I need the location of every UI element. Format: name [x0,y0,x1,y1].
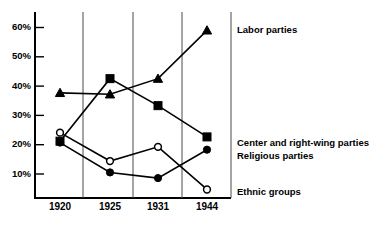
x-tick-label-1925: 1925 [99,201,122,212]
chart-canvas: 60% 50% 40% 30% 20% 10% 1920 1925 1931 1… [0,0,381,226]
legend-label-ethnic-groups: Ethnic groups [237,186,301,197]
data-point-1931 [155,143,162,150]
line-chart: 60% 50% 40% 30% 20% 10% 1920 1925 1931 1… [0,0,381,226]
x-tick-label-1931: 1931 [147,201,170,212]
data-point-1925 [107,158,114,165]
data-point-1920 [57,129,64,136]
data-point-1931 [154,175,161,182]
y-tick-label-50: 50% [12,50,32,61]
legend-label-labor-parties: Labor parties [237,24,297,35]
chart-background [0,0,381,226]
data-point-1925 [106,75,114,83]
y-tick-label-10: 10% [12,168,32,179]
data-point-1944 [204,186,211,193]
y-tick-label-40: 40% [12,80,32,91]
legend-label-center-and-right-wing-parties: Center and right-wing parties [237,137,369,148]
data-point-1944 [203,133,211,141]
y-tick-label-60: 60% [12,21,32,32]
data-point-1920 [56,139,63,146]
y-tick-label-20: 20% [12,138,32,149]
x-tick-label-1944: 1944 [196,201,219,212]
x-tick-label-1920: 1920 [49,201,72,212]
data-point-1925 [106,169,113,176]
data-point-1931 [154,102,162,110]
y-tick-label-30: 30% [12,109,32,120]
data-point-1944 [203,146,210,153]
legend-label-religious-parties: Religious parties [237,150,314,161]
